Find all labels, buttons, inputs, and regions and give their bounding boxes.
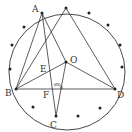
label-B: B xyxy=(5,88,12,98)
vertex-T xyxy=(65,7,68,10)
circle-dot xyxy=(23,26,26,29)
point-labels: AOBDCEF xyxy=(5,4,124,130)
circle-dot xyxy=(119,44,122,47)
circle-dot xyxy=(88,12,91,15)
label-E: E xyxy=(40,64,47,74)
vertex-A xyxy=(41,12,44,15)
circle-dot xyxy=(32,106,35,109)
circle-dot xyxy=(77,115,80,118)
diagram-canvas: AOBDCEF xyxy=(0,0,132,132)
vertex-O xyxy=(65,61,68,64)
vertices xyxy=(15,7,117,118)
vertex-C xyxy=(55,115,58,118)
circle-dot xyxy=(99,107,102,110)
segment-OD xyxy=(66,62,115,89)
label-O: O xyxy=(70,55,77,65)
label-A: A xyxy=(31,4,39,14)
geometry-diagram: AOBDCEF xyxy=(0,0,132,132)
circle-dot xyxy=(121,66,124,69)
circle-dot xyxy=(107,24,110,27)
circle-dot xyxy=(11,44,14,47)
segment-TD xyxy=(66,8,115,89)
circle-dot xyxy=(9,68,12,71)
label-F: F xyxy=(43,90,49,100)
label-D: D xyxy=(117,90,124,100)
circle-dots xyxy=(9,12,124,118)
segment-AB xyxy=(16,13,42,89)
label-C: C xyxy=(50,120,57,130)
vertex-B xyxy=(15,88,18,91)
